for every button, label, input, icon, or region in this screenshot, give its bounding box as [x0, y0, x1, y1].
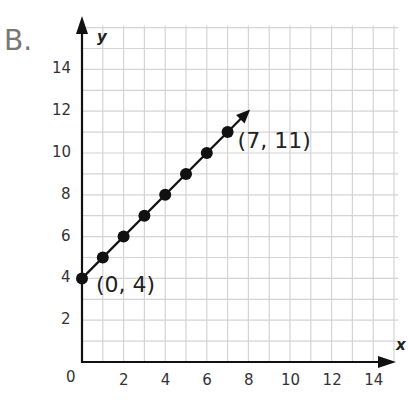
x-tick-label: 8: [244, 373, 254, 388]
x-tick-label: 2: [119, 373, 129, 388]
point-annotation: (0, 4): [96, 272, 155, 297]
x-tick-label: 14: [364, 373, 383, 388]
x-tick-label: 4: [161, 373, 171, 388]
data-point: [76, 272, 88, 284]
y-tick-label: 14: [52, 61, 71, 76]
y-tick-label: 12: [52, 103, 71, 118]
data-series: [76, 109, 250, 284]
y-tick-label: 10: [52, 145, 71, 160]
data-point: [222, 126, 234, 138]
data-point: [118, 231, 130, 243]
data-point: [201, 147, 213, 159]
y-tick-label: 8: [61, 187, 71, 202]
y-tick-label: 2: [61, 312, 71, 327]
data-point: [159, 189, 171, 201]
data-point: [97, 252, 109, 264]
y-axis-label: y: [97, 28, 107, 46]
x-axis-label: x: [396, 336, 406, 354]
data-point: [138, 210, 150, 222]
x-tick-label: 12: [323, 373, 342, 388]
x-tick-label: 6: [202, 373, 212, 388]
y-tick-label: 4: [61, 270, 71, 285]
grid-lines: [82, 26, 398, 362]
x-tick-label: 10: [281, 373, 300, 388]
y-tick-label: 6: [61, 229, 71, 244]
point-annotation: (7, 11): [238, 128, 311, 153]
origin-label: 0: [66, 370, 76, 385]
data-point: [180, 168, 192, 180]
